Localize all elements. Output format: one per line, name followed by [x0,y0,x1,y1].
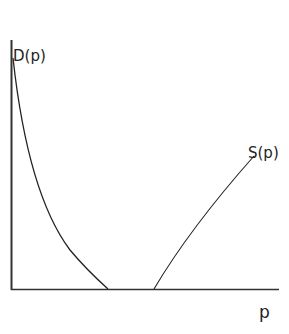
demand-curve [13,58,108,289]
supply-curve [154,156,254,289]
supply-label: S(p) [248,146,279,161]
x-axis-label: p [259,304,270,321]
demand-label: D(p) [13,49,46,64]
